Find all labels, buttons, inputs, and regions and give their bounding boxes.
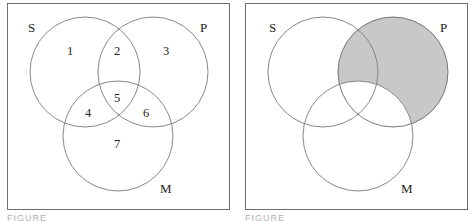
figure-11-caption: FIGURE 11 (245, 213, 285, 221)
label-p: P (440, 20, 447, 35)
shaded-region-p-not-m (338, 17, 448, 127)
venn-diagram-figure-11: S P M (0, 0, 470, 221)
label-m: M (401, 181, 413, 196)
label-s: S (269, 20, 276, 35)
